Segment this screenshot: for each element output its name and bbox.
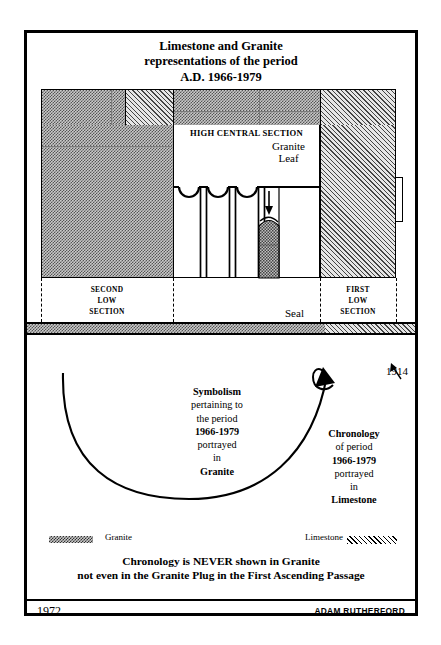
second-low-line-2: LOW bbox=[41, 295, 173, 306]
lower-annotation-area: 1914 Symbolism pertaining to the period … bbox=[27, 371, 415, 531]
title-line-1: Limestone and Granite bbox=[27, 39, 415, 54]
title-line-3: A.D. 1966-1979 bbox=[27, 70, 415, 85]
granite-block-upper-center bbox=[173, 89, 320, 125]
seal-label: Seal bbox=[285, 307, 304, 319]
symbolism-line-2: pertaining to bbox=[147, 398, 287, 411]
first-low-line-3: SECTION bbox=[320, 306, 396, 317]
chronology-line-4: portrayed bbox=[295, 467, 413, 480]
chronology-line-6: Limestone bbox=[295, 493, 413, 506]
second-low-line-3: SECTION bbox=[41, 306, 173, 317]
chronology-annotation: Chronology of period 1966-1979 portrayed… bbox=[295, 427, 413, 507]
granite-mass-left bbox=[41, 125, 173, 278]
first-low-line-1: FIRST bbox=[320, 284, 396, 295]
statement-block: Chronology is NEVER shown in Granite not… bbox=[27, 554, 415, 583]
granite-block-upper-left bbox=[41, 89, 125, 125]
limestone-block-upper-left bbox=[125, 89, 173, 125]
legend-limestone-label: Limestone bbox=[305, 532, 343, 542]
symbolism-line-1: Symbolism bbox=[147, 385, 287, 398]
masonry-diagram: HIGH CENTRAL SECTION Granite Leaf bbox=[27, 89, 415, 371]
limestone-block-upper-right bbox=[320, 89, 396, 125]
symbolism-line-3: the period bbox=[147, 412, 287, 425]
statement-line-1: Chronology is NEVER shown in Granite bbox=[27, 554, 415, 568]
chamber-shafts-svg bbox=[173, 125, 320, 278]
limestone-mass-right bbox=[320, 125, 396, 278]
legend: Granite Limestone bbox=[27, 530, 415, 552]
first-low-section-label: FIRST LOW SECTION bbox=[320, 284, 396, 317]
footer-year: 1972 bbox=[37, 604, 61, 619]
symbolism-line-4: 1966-1979 bbox=[147, 425, 287, 438]
first-low-line-2: LOW bbox=[320, 295, 396, 306]
footer-author: ADAM RUTHERFORD bbox=[314, 606, 405, 616]
limestone-swatch-icon bbox=[347, 536, 397, 544]
symbolism-line-7: Granite bbox=[147, 465, 287, 478]
course-seam-horizontal-2 bbox=[174, 111, 319, 112]
granite-swatch-icon bbox=[49, 536, 93, 543]
floor-band-granite bbox=[27, 324, 325, 333]
right-edge-notch bbox=[396, 177, 403, 222]
diagram-plate: Limestone and Granite representations of… bbox=[24, 30, 418, 616]
statement-line-2: not even in the Granite Plug in the Firs… bbox=[27, 568, 415, 582]
floor-band-bottom-rule bbox=[27, 333, 415, 335]
floor-band-limestone bbox=[325, 324, 415, 333]
footer-divider bbox=[27, 599, 415, 601]
course-seam-horizontal bbox=[42, 146, 172, 147]
title-line-2: representations of the period bbox=[27, 54, 415, 69]
chronology-line-3: 1966-1979 bbox=[295, 454, 413, 467]
chronology-line-2: of period bbox=[295, 440, 413, 453]
page-title: Limestone and Granite representations of… bbox=[27, 39, 415, 85]
course-seam-vertical-2 bbox=[259, 90, 260, 125]
second-low-section-marker-right bbox=[173, 278, 174, 322]
legend-granite-label: Granite bbox=[105, 532, 132, 542]
first-low-section-marker-right bbox=[396, 278, 397, 322]
symbolism-annotation: Symbolism pertaining to the period 1966-… bbox=[147, 385, 287, 478]
chronology-line-1: Chronology bbox=[295, 427, 413, 440]
chronology-line-5: in bbox=[295, 480, 413, 493]
second-low-line-1: SECOND bbox=[41, 284, 173, 295]
second-low-section-label: SECOND LOW SECTION bbox=[41, 284, 173, 317]
symbolism-line-5: portrayed bbox=[147, 438, 287, 451]
symbolism-line-6: in bbox=[147, 451, 287, 464]
course-seam-vertical bbox=[111, 90, 112, 125]
